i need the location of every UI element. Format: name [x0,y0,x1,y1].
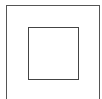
inner-square [28,27,79,80]
